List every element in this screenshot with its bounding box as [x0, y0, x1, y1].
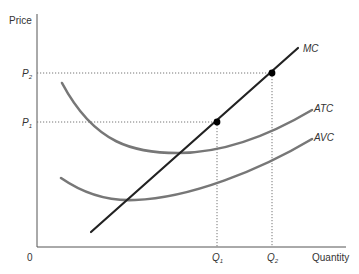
atc-label: ATC — [313, 103, 334, 114]
mc-line — [91, 48, 298, 232]
p2-label: P2 — [22, 68, 33, 80]
q2-label: Q2 — [267, 252, 279, 264]
point-q1-p1 — [214, 119, 221, 126]
x-axis-label: Quantity — [312, 252, 349, 263]
avc-label: AVC — [313, 132, 335, 143]
cost-curves-chart: Price 0 Quantity P2 P1 Q1 Q2 MC ATC AVC — [0, 0, 359, 274]
y-axis-label: Price — [9, 15, 32, 26]
point-q2-p2 — [269, 70, 276, 77]
q1-label: Q1 — [212, 252, 223, 264]
mc-label: MC — [303, 43, 319, 54]
atc-curve — [62, 83, 312, 153]
p1-label: P1 — [22, 117, 32, 129]
origin-label: 0 — [27, 252, 33, 263]
